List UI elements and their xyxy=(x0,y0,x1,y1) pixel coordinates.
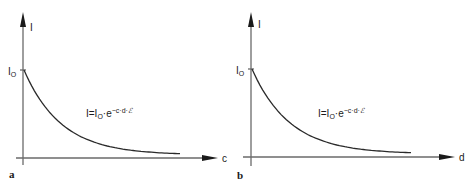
x-axis-label: d xyxy=(459,152,465,163)
formula: I=IO·e−c·d·ℰ xyxy=(86,107,133,120)
y-axis-label: I xyxy=(258,19,261,30)
x-axis-label: c xyxy=(222,153,227,164)
panel-b: I d IO I=IO·e−c·d·ℰ b xyxy=(236,12,465,181)
i0-label: IO xyxy=(236,65,245,77)
i0-label: IO xyxy=(8,66,17,78)
x-axis-arrow-icon xyxy=(439,154,455,160)
panel-a: I c IO I=IO·e−c·d·ℰ a xyxy=(8,12,227,180)
x-axis-arrow-icon xyxy=(202,155,218,161)
y-axis-arrow-icon xyxy=(248,12,254,27)
decay-curve xyxy=(252,69,411,153)
formula: I=IO·e−c·d·ℰ xyxy=(318,107,365,120)
panel-label: a xyxy=(9,168,15,180)
y-axis-arrow-icon xyxy=(20,12,26,27)
panel-label: b xyxy=(237,169,243,181)
y-axis-label: I xyxy=(30,22,33,33)
diagram-canvas: I c IO I=IO·e−c·d·ℰ a I d IO I=IO·e−c·d·… xyxy=(0,0,468,186)
